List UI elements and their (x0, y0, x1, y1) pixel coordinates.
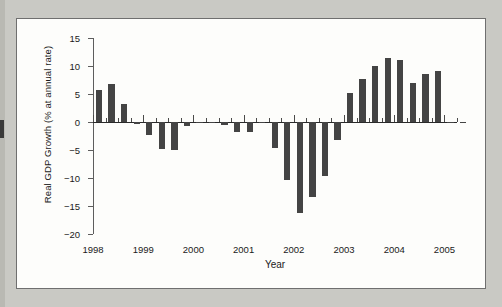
x-tick-minor (419, 118, 420, 122)
x-tick-minor (106, 118, 107, 122)
bar (309, 122, 315, 197)
y-tick: 0 (88, 122, 93, 123)
bar (171, 122, 177, 150)
x-tick-label: 2001 (233, 244, 254, 255)
bar (410, 83, 416, 122)
x-tick-minor (269, 118, 270, 122)
x-tick-label: 2005 (434, 244, 455, 255)
y-tick: −20 (88, 234, 93, 235)
x-tick-label: 2003 (333, 244, 354, 255)
bar (447, 122, 453, 123)
bar (247, 122, 253, 132)
x-tick-minor (156, 118, 157, 122)
bar (385, 58, 391, 122)
bar (397, 60, 403, 122)
x-tick-minor (357, 118, 358, 122)
x-tick-minor (369, 118, 370, 122)
bar (146, 122, 152, 135)
x-tick-minor (206, 118, 207, 122)
plot-wrapper: Real GDP Growth (% at annual rate) 15105… (17, 19, 487, 290)
x-tick-minor (407, 118, 408, 122)
x-tick-major (193, 115, 194, 122)
bar (159, 122, 165, 149)
bar (272, 122, 278, 148)
x-tick-minor (331, 118, 332, 122)
bar (196, 122, 202, 123)
bar (96, 90, 102, 122)
y-tick-label: −20 (64, 229, 80, 240)
x-tick-major (143, 115, 144, 122)
x-tick-minor (432, 118, 433, 122)
x-tick-label: 1999 (133, 244, 154, 255)
bar (234, 122, 240, 132)
bar (108, 84, 114, 122)
x-tick-minor (281, 118, 282, 122)
x-tick-minor (306, 118, 307, 122)
y-axis-title: Real GDP Growth (% at annual rate) (42, 35, 53, 215)
x-tick-major (93, 115, 94, 122)
bar (121, 104, 127, 122)
y-axis-spine (93, 38, 94, 234)
x-tick-label: 2002 (283, 244, 304, 255)
bar (347, 93, 353, 122)
bar (435, 71, 441, 122)
y-tick: −15 (88, 206, 93, 207)
y-tick: 5 (88, 94, 93, 95)
y-tick: −5 (88, 150, 93, 151)
bar (460, 122, 466, 123)
y-tick-label: −15 (64, 201, 80, 212)
plot-area: 151050−5−10−15−20 1998199920002001200220… (93, 38, 457, 234)
x-tick-minor (219, 118, 220, 122)
bar (134, 122, 140, 124)
x-tick-minor (256, 118, 257, 122)
bar (422, 74, 428, 122)
x-tick-minor (131, 118, 132, 122)
bar (284, 122, 290, 180)
figure-page: Real GDP Growth (% at annual rate) 15105… (0, 0, 502, 307)
x-tick-label: 2000 (183, 244, 204, 255)
bar (209, 122, 215, 123)
y-tick: −10 (88, 178, 93, 179)
x-tick-minor (382, 118, 383, 122)
bar (359, 79, 365, 122)
x-tick-major (344, 115, 345, 122)
x-tick-label: 2004 (384, 244, 405, 255)
x-tick-minor (118, 118, 119, 122)
x-tick-major (244, 115, 245, 122)
x-tick-minor (457, 118, 458, 122)
y-tick: 15 (88, 38, 93, 39)
x-tick-major (444, 115, 445, 122)
bar (372, 66, 378, 122)
page-edge-mark (0, 120, 4, 138)
y-tick-label: −10 (64, 173, 80, 184)
bar (322, 122, 328, 176)
x-tick-minor (319, 118, 320, 122)
y-tick-label: 15 (69, 33, 80, 44)
x-tick-minor (168, 118, 169, 122)
bar (297, 122, 303, 213)
x-tick-major (294, 115, 295, 122)
y-tick-label: 10 (69, 61, 80, 72)
bar (334, 122, 340, 140)
x-tick-minor (181, 118, 182, 122)
y-tick: 10 (88, 66, 93, 67)
bar (221, 122, 227, 125)
x-tick-major (394, 115, 395, 122)
page-edge-sliver (0, 0, 5, 307)
x-tick-label: 1998 (82, 244, 103, 255)
x-tick-minor (231, 118, 232, 122)
bar (259, 122, 265, 123)
y-tick-label: 0 (75, 117, 80, 128)
bar (184, 122, 190, 126)
y-tick-label: −5 (69, 145, 80, 156)
y-tick-label: 5 (75, 89, 80, 100)
x-axis-title: Year (93, 259, 457, 270)
chart-figure-frame: Real GDP Growth (% at annual rate) 15105… (16, 18, 486, 289)
